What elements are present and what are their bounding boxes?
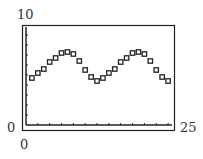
data-point bbox=[160, 75, 164, 79]
data-points bbox=[30, 50, 171, 83]
data-point bbox=[130, 51, 134, 55]
scatter-plot bbox=[0, 0, 203, 159]
data-point bbox=[148, 59, 152, 63]
data-point bbox=[47, 60, 51, 64]
data-point bbox=[119, 60, 123, 64]
plot-frame bbox=[23, 26, 175, 131]
data-point bbox=[124, 56, 128, 60]
data-point bbox=[83, 68, 87, 72]
data-point bbox=[113, 67, 117, 71]
data-point bbox=[136, 50, 140, 54]
data-point bbox=[53, 56, 57, 60]
data-point bbox=[65, 50, 69, 54]
data-point bbox=[71, 52, 75, 56]
data-point bbox=[142, 52, 146, 56]
data-point bbox=[107, 71, 111, 75]
data-point bbox=[89, 75, 93, 79]
axes bbox=[26, 27, 172, 125]
data-point bbox=[59, 51, 63, 55]
data-point bbox=[154, 68, 158, 72]
data-point bbox=[42, 67, 46, 71]
data-point bbox=[166, 79, 170, 83]
data-point bbox=[101, 76, 105, 80]
data-point bbox=[36, 71, 40, 75]
data-point bbox=[95, 79, 99, 83]
data-point bbox=[30, 76, 34, 80]
data-point bbox=[77, 59, 81, 63]
